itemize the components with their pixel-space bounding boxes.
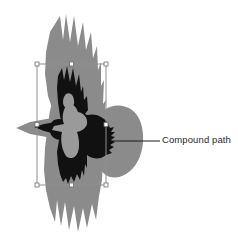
illustration-canvas: Compound path [0,0,238,243]
handle-bottom-center[interactable] [70,183,74,187]
handle-top-center[interactable] [70,62,74,66]
handle-top-right[interactable] [104,62,108,66]
handle-bottom-right[interactable] [104,183,108,187]
handle-top-left[interactable] [35,62,39,66]
handle-middle-left[interactable] [35,123,39,127]
callout-label: Compound path [162,134,231,146]
handle-bottom-left[interactable] [35,183,39,187]
handle-middle-right[interactable] [104,123,108,127]
artwork-svg [0,0,238,243]
